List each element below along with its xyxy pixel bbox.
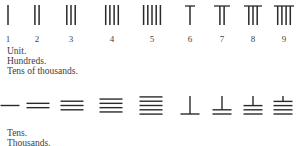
digit-label: 9 bbox=[274, 34, 294, 44]
horizontal-numeral-5 bbox=[140, 97, 163, 114]
caption-tens: Tens. bbox=[7, 128, 27, 138]
horizontal-numeral-7 bbox=[213, 96, 232, 114]
digit-label: 7 bbox=[212, 34, 232, 44]
rod-numerals-figure: 1 2 3 4 5 6 7 8 9 Unit. Hundreds. Tens o… bbox=[0, 0, 302, 146]
vertical-numerals-row bbox=[8, 5, 294, 25]
digit-label: 2 bbox=[27, 34, 47, 44]
vertical-numeral-4 bbox=[106, 5, 119, 25]
digit-label: 8 bbox=[243, 34, 263, 44]
horizontal-numerals-row bbox=[1, 96, 293, 114]
vertical-numeral-9 bbox=[274, 6, 294, 25]
vertical-numeral-3 bbox=[67, 5, 75, 25]
digit-label: 3 bbox=[61, 34, 81, 44]
vertical-numeral-7 bbox=[214, 6, 230, 25]
vertical-numeral-8 bbox=[244, 6, 262, 25]
digit-label: 5 bbox=[142, 34, 162, 44]
digit-label: 1 bbox=[0, 34, 18, 44]
vertical-numeral-5 bbox=[144, 5, 161, 25]
horizontal-numeral-3 bbox=[61, 101, 84, 110]
horizontal-numeral-9 bbox=[274, 96, 293, 114]
horizontal-numeral-6 bbox=[181, 96, 200, 114]
digit-label: 4 bbox=[102, 34, 122, 44]
caption-tens-of-thousands: Tens of thousands. bbox=[7, 66, 78, 76]
vertical-numeral-2 bbox=[35, 5, 39, 25]
caption-thousands: Thousands. bbox=[7, 138, 51, 146]
caption-hundreds: Hundreds. bbox=[7, 56, 46, 66]
digit-label: 6 bbox=[180, 34, 200, 44]
vertical-numeral-6 bbox=[185, 6, 195, 25]
caption-unit: Unit. bbox=[7, 46, 26, 56]
horizontal-numeral-2 bbox=[27, 103, 50, 107]
horizontal-numeral-4 bbox=[100, 99, 123, 112]
horizontal-numeral-8 bbox=[244, 96, 263, 114]
